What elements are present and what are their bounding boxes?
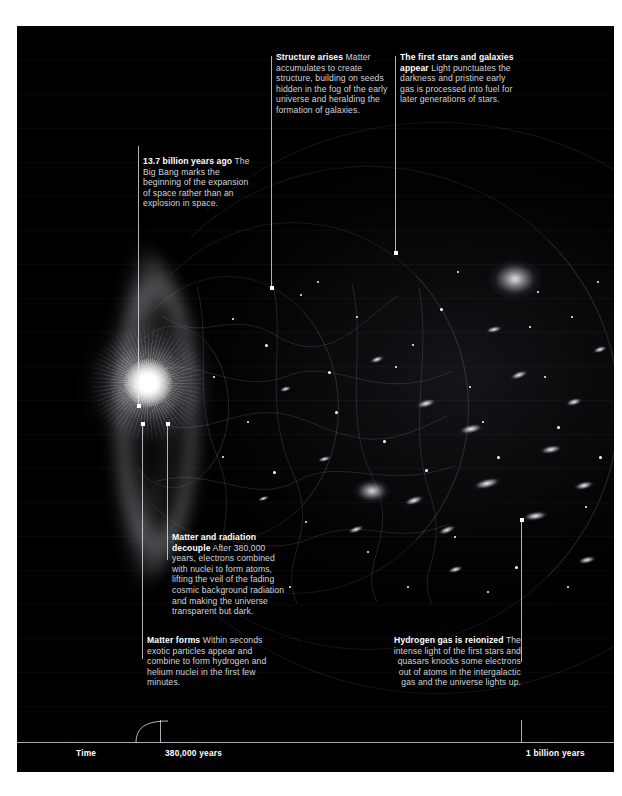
callout-title: Matter forms — [147, 635, 200, 645]
galaxy-star-field — [17, 26, 614, 772]
galaxy — [446, 564, 464, 575]
callout-first-stars: The first stars and galaxies appear Ligh… — [400, 52, 515, 105]
timeline-tick-label-1billion: 1 billion years — [526, 748, 585, 758]
leader-line-structure-arises — [271, 56, 272, 288]
galaxy — [257, 494, 271, 503]
leader-dot — [270, 286, 274, 290]
callout-title: Structure arises — [276, 52, 343, 62]
timeline-bracket — [135, 720, 169, 744]
bright-galaxy-cluster — [487, 258, 543, 300]
galaxy — [508, 368, 530, 382]
galaxy — [457, 421, 485, 436]
galaxy — [316, 454, 332, 464]
callout-structure-arises: Structure arises Matter accumulates to c… — [276, 52, 388, 116]
leader-line-big-bang — [138, 146, 139, 406]
galaxy — [572, 479, 595, 493]
leader-dot — [141, 422, 145, 426]
leader-dot — [137, 404, 141, 408]
leader-line-first-stars — [395, 56, 396, 253]
galaxy — [368, 354, 385, 366]
leader-line-decouple — [167, 424, 168, 560]
timeline-tick-380000 — [160, 720, 161, 743]
cosmology-artwork-panel: 13.7 billion years ago The Big Bang mark… — [17, 26, 614, 772]
timeline-axis-label: Time — [76, 748, 96, 758]
leader-line-matter-forms — [142, 424, 143, 659]
bright-galaxy-core — [352, 478, 392, 504]
callout-big-bang: 13.7 billion years ago The Big Bang mark… — [143, 156, 251, 209]
galaxy — [484, 324, 503, 335]
callout-body: After 380,000 years, electrons combined … — [172, 543, 284, 617]
leader-dot — [394, 251, 398, 255]
callout-title: 13.7 billion years ago — [143, 156, 232, 166]
galaxy — [402, 493, 426, 508]
leader-line-reionized — [521, 520, 522, 662]
galaxy — [591, 344, 608, 356]
galaxy — [414, 396, 438, 411]
galaxy — [346, 523, 365, 536]
leader-dot — [166, 422, 170, 426]
callout-decouple: Matter and radiation decouple After 380,… — [172, 532, 285, 617]
timeline-tick-1billion — [521, 720, 522, 743]
timeline-tick-label-380000: 380,000 years — [165, 748, 222, 758]
leader-dot — [520, 518, 524, 522]
galaxy — [538, 443, 563, 456]
infographic-page: 13.7 billion years ago The Big Bang mark… — [0, 0, 622, 796]
callout-title: Hydrogen gas is reionized — [394, 635, 503, 645]
galaxy — [564, 396, 583, 408]
callout-matter-forms: Matter forms Within seconds exotic parti… — [147, 635, 267, 688]
galaxy — [576, 554, 597, 566]
galaxy — [471, 475, 503, 493]
galaxy — [278, 384, 292, 393]
galaxy — [521, 509, 549, 523]
timeline-axis — [17, 742, 614, 743]
callout-reionized: Hydrogen gas is reionized The intense li… — [390, 635, 521, 688]
